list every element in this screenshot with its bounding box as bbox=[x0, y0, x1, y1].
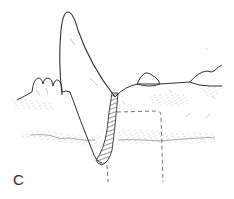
right-mound bbox=[190, 65, 222, 82]
left-lumps bbox=[17, 78, 70, 100]
flame-shaped-mound bbox=[60, 12, 115, 97]
profile-diagram bbox=[0, 0, 234, 199]
hatched-wall bbox=[96, 93, 118, 165]
panel-label: C bbox=[13, 171, 24, 188]
pit-inner-wall bbox=[70, 92, 102, 163]
